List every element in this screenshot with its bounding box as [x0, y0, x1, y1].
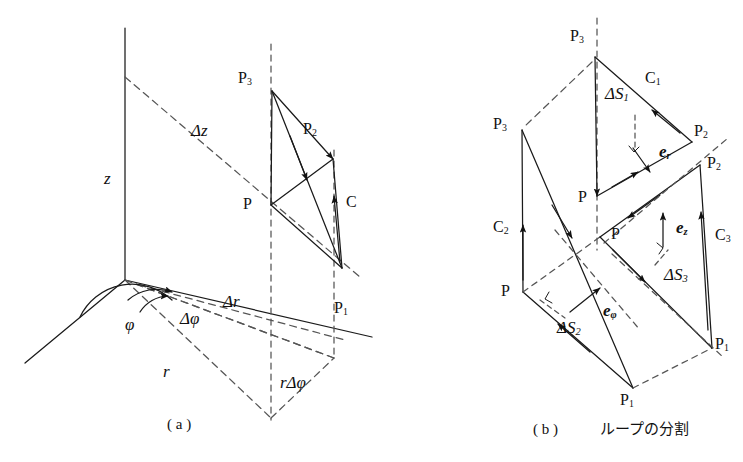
- vector-label-ez-base: e: [676, 218, 684, 237]
- point-a-P: P: [243, 196, 252, 212]
- label-axis-z: z: [104, 170, 111, 187]
- arrow-b-P-P2: [612, 172, 638, 187]
- label-delta-S1-base: ΔS: [605, 84, 623, 103]
- point-b-P1-bottom-sub: 1: [629, 398, 634, 409]
- vector-label-ephi: eφ: [603, 302, 617, 321]
- panel-a-geometry: [25, 28, 372, 420]
- point-b-P2-upper: P2: [694, 123, 708, 140]
- point-b-P-center-text: P: [611, 225, 620, 242]
- caption-b-label: ( b ): [533, 422, 558, 437]
- edge-b-P-P2: [597, 142, 692, 196]
- label-r-delta-phi: rΔφ: [280, 374, 306, 391]
- curve-b-C3-sub: 3: [726, 233, 731, 244]
- arrow-on-P3-P1: [290, 136, 307, 180]
- point-b-P3-left-sub: 3: [502, 122, 507, 133]
- point-a-P1: P1: [334, 300, 348, 317]
- label-delta-S1-sub: 1: [623, 92, 628, 103]
- dashed-b-slant: [555, 230, 640, 330]
- point-a-P2: P2: [303, 121, 317, 138]
- vector-label-ez-sub: z: [684, 226, 688, 237]
- curve-b-C1: C1: [645, 70, 661, 87]
- point-a-P3: P3: [238, 70, 252, 87]
- point-b-P3-left: P3: [493, 116, 507, 133]
- dashed-normal-ephi: [540, 300, 565, 318]
- point-b-P2-lower-sub: 2: [716, 161, 721, 172]
- label-delta-S2-base: ΔS: [557, 318, 575, 337]
- curve-b-C2: C2: [493, 219, 509, 236]
- curve-b-C1-sub: 1: [656, 76, 661, 87]
- point-a-P1-sub: 1: [343, 306, 348, 317]
- curve-a-C: C: [346, 194, 357, 210]
- point-b-P-upper-text: P: [578, 188, 587, 205]
- label-delta-r: Δr: [223, 293, 240, 310]
- base-top-dashed: [139, 285, 345, 340]
- point-b-P3-top-base: P: [570, 27, 579, 44]
- curve-b-C2-sub: 2: [504, 225, 509, 236]
- label-delta-S3-base: ΔS: [664, 265, 682, 284]
- label-angle-phi: φ: [125, 316, 134, 333]
- caption-a-label: ( a ): [167, 417, 191, 432]
- right-angle-ephi: [545, 292, 552, 303]
- point-a-P2-base: P: [303, 120, 312, 137]
- curve-b-C3-base: C: [715, 226, 726, 243]
- point-b-P3-left-base: P: [493, 115, 502, 132]
- vector-er: [633, 148, 650, 172]
- point-a-P3-sub: 3: [247, 76, 252, 87]
- caption-b-text: ループの分割: [600, 422, 689, 437]
- point-b-P1-right-base: P: [715, 335, 724, 352]
- point-b-P-upper: P: [578, 189, 587, 205]
- panel-b-geometry: [522, 18, 728, 388]
- vector-label-ephi-base: e: [603, 301, 611, 320]
- point-b-P1-bottom: P1: [620, 392, 634, 409]
- curve-b-C3: C3: [715, 227, 731, 244]
- edge-P3-P: [271, 91, 272, 205]
- label-delta-S3: ΔS3: [664, 266, 688, 285]
- label-delta-S2: ΔS2: [557, 319, 581, 338]
- vector-label-er: er: [659, 143, 671, 162]
- point-b-P2-lower: P2: [707, 155, 721, 172]
- point-b-P2-lower-base: P: [707, 154, 716, 171]
- point-a-P2-sub: 2: [312, 127, 317, 138]
- right-angle-ez: [657, 243, 663, 254]
- arrow-b-P-P1R: [613, 250, 645, 282]
- curve-a-C-text: C: [346, 193, 357, 210]
- edge-b-P3L-P1: [522, 130, 633, 388]
- vector-label-er-base: e: [659, 142, 667, 161]
- label-axis-r: r: [163, 363, 170, 380]
- curve-b-C2-base: C: [493, 218, 504, 235]
- vector-label-ez: ez: [676, 219, 688, 238]
- edge-b-down-arrow: [552, 205, 572, 238]
- point-b-P1-bottom-base: P: [620, 391, 629, 408]
- label-delta-S1: ΔS1: [605, 85, 629, 104]
- vector-label-er-sub: r: [667, 150, 671, 161]
- point-b-P1-right-sub: 1: [724, 342, 729, 353]
- curve-C1-arrow: [652, 110, 680, 133]
- point-b-P2-upper-base: P: [694, 122, 703, 139]
- point-b-P-center: P: [611, 226, 620, 242]
- dashed-b-P1-bottom: [633, 348, 712, 388]
- point-b-P3-top: P3: [570, 28, 584, 45]
- point-a-P-text: P: [243, 195, 252, 212]
- dashed-normal-ez: [655, 250, 668, 265]
- label-delta-z: Δz: [191, 122, 208, 139]
- edge-b-P2R-P1R: [700, 165, 712, 348]
- point-b-P3-top-sub: 3: [579, 34, 584, 45]
- label-delta-phi: Δφ: [180, 310, 199, 327]
- label-delta-S3-sub: 3: [682, 273, 687, 284]
- dashed-P3-P3: [524, 62, 592, 127]
- vector-label-ephi-sub: φ: [611, 309, 617, 320]
- arrow-b-P2R-P: [628, 195, 660, 218]
- edge-P-P1: [271, 205, 342, 268]
- point-a-P1-base: P: [334, 299, 343, 316]
- plane-edge-dashed: [125, 77, 360, 277]
- axis-ground-left: [25, 280, 125, 363]
- point-b-P-left-text: P: [501, 282, 510, 299]
- point-b-P2-upper-sub: 2: [703, 129, 708, 140]
- point-a-P3-base: P: [238, 69, 247, 86]
- point-b-P1-right: P1: [715, 336, 729, 353]
- point-b-P-left: P: [501, 283, 510, 299]
- curve-b-C1-base: C: [645, 69, 656, 86]
- label-delta-S2-sub: 2: [575, 326, 580, 337]
